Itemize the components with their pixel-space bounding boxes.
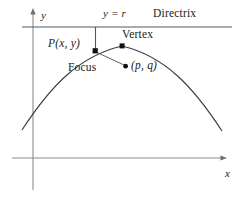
parabola-curve <box>22 46 222 131</box>
vertex-label: Vertex <box>122 29 153 41</box>
x-axis <box>12 155 227 160</box>
y-axis-label: y <box>41 10 46 21</box>
p-to-focus-segment <box>96 52 124 65</box>
y-axis <box>30 8 35 190</box>
figure-canvas <box>0 0 238 197</box>
vertex-marker <box>120 43 125 48</box>
point-p-marker <box>93 48 98 53</box>
directrix-name-label: Directrix <box>153 8 196 20</box>
directrix-equation-label: y = r <box>103 8 126 19</box>
focus-coordinate-label: (p, q) <box>131 60 157 72</box>
parabola-figure: y x y = r Directrix Vertex P(x, y) Focus… <box>0 0 238 197</box>
point-p-label: P(x, y) <box>48 38 80 50</box>
focus-point-marker <box>123 64 128 69</box>
y-axis-arrowhead <box>30 8 35 15</box>
focus-label: Focus <box>68 62 96 74</box>
x-axis-arrowhead <box>221 155 228 160</box>
x-axis-label: x <box>225 168 230 179</box>
